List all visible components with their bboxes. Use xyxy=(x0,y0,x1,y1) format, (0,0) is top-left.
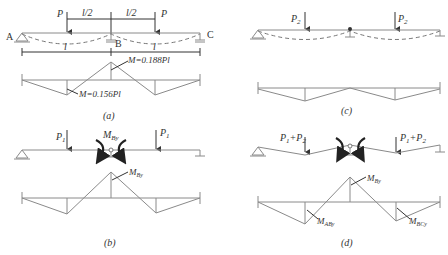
moment-arrow-right-icon xyxy=(119,140,126,158)
applied-moment-label: MBy xyxy=(102,129,120,142)
span-moment-label-left: MABy xyxy=(316,216,335,227)
support-moment-label: MBy xyxy=(366,173,381,184)
roller-support-C xyxy=(195,150,205,156)
support-label-C: C xyxy=(207,29,214,40)
roller-support-C xyxy=(435,30,445,36)
moment-diagram-b xyxy=(22,172,200,214)
moment-diagram-c xyxy=(258,82,440,101)
span-label-right: l xyxy=(153,41,156,52)
roller-support-C xyxy=(195,33,205,42)
load-label-right: P2 xyxy=(397,13,408,26)
load-label-right: P xyxy=(160,8,167,19)
caption-b: (b) xyxy=(104,237,116,249)
beam-diagram-figure: P P l/2 l/2 A B C l xyxy=(0,0,448,255)
caption-c: (c) xyxy=(341,105,353,117)
panel-d: P1+P2 P1+P2 MBy xyxy=(250,132,445,249)
hinge-support-B xyxy=(106,148,116,157)
panel-c: P2 P2 (c) xyxy=(250,12,445,117)
support-label-A: A xyxy=(6,31,14,42)
half-span-label-right: l/2 xyxy=(126,7,137,18)
panel-a: P P l/2 l/2 A B C l xyxy=(6,7,214,122)
caption-a: (a) xyxy=(103,110,115,122)
support-label-B: B xyxy=(115,38,122,49)
caption-d: (d) xyxy=(341,237,353,249)
load-label-left: P xyxy=(56,8,63,19)
panel-b: P1 P1 MBy MBy (b) xyxy=(14,127,205,249)
support-moment-label: MBy xyxy=(128,167,143,178)
hinge-support-B xyxy=(345,27,355,37)
half-span-label-left: l/2 xyxy=(82,7,93,18)
span-moment-label: M=0.156Pl xyxy=(78,89,121,99)
span-label-left: l xyxy=(64,41,67,52)
load-label-left: P2 xyxy=(290,13,301,26)
deflected-shape xyxy=(258,31,440,40)
support-moment-label: M=0.188Pl xyxy=(127,55,170,65)
pin-support-A xyxy=(14,150,30,159)
load-label-right: P1 xyxy=(159,127,170,140)
load-label-left: P1 xyxy=(55,131,66,144)
span-moment-label-right: MBCy xyxy=(408,216,427,227)
load-label-left: P1+P2 xyxy=(279,132,306,145)
load-label-right: P1+P2 xyxy=(399,132,426,145)
moment-arrow-left-icon xyxy=(96,140,103,158)
